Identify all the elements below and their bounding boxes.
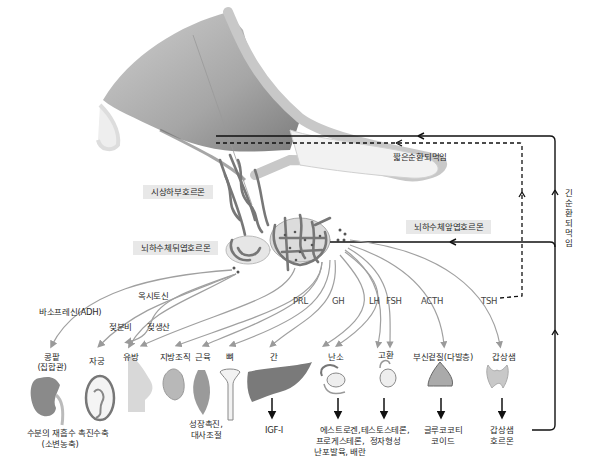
effect-testis-line2: 정자형성 bbox=[370, 436, 401, 446]
target-adrenal-label: 부신겉질(다발층) bbox=[413, 352, 473, 362]
hormone-adh-label: 바소프레신(ADH) bbox=[39, 307, 101, 317]
hormone-tsh-label: TSH bbox=[481, 296, 497, 306]
effect-adrenal-line1: 글루코코티 bbox=[424, 425, 463, 435]
target-bone-label: 뼈 bbox=[226, 352, 234, 362]
muscle-icon bbox=[193, 370, 210, 415]
effect-thyroid-line1: 갑상샘 bbox=[490, 425, 513, 435]
posterior-pituitary-hormone-label: 뇌하수체뒤엽호르몬 bbox=[133, 241, 218, 255]
hormone-acth-label: ACTH bbox=[421, 296, 443, 306]
effect-kidney-line1: 수분의 재흡수 촉진 bbox=[27, 428, 93, 438]
kidney-icon bbox=[31, 377, 63, 425]
pituitary-illustration bbox=[220, 155, 330, 270]
diagram-artwork bbox=[0, 0, 589, 466]
hormone-fsh-label: FSH bbox=[386, 296, 402, 306]
adrenal-icon bbox=[428, 362, 453, 386]
ovary-icon bbox=[321, 365, 345, 393]
target-ovary-label: 난소 bbox=[328, 352, 343, 362]
adipose-icon bbox=[163, 369, 184, 400]
hypothalamic-hormone-label: 시상하부호르몬 bbox=[143, 185, 213, 199]
short-feedback-label: 짧은순환되먹임 bbox=[393, 152, 447, 162]
target-adipose-label: 지방조직 bbox=[160, 352, 191, 362]
liver-icon bbox=[247, 362, 312, 402]
effect-adrenal-line2: 코이드 bbox=[431, 436, 454, 446]
target-testis-label: 고환 bbox=[378, 350, 393, 360]
effect-growth-line1: 성장촉진, bbox=[189, 419, 222, 429]
target-muscle-label: 근육 bbox=[195, 352, 210, 362]
bone-icon bbox=[220, 369, 240, 420]
hormone-prl-label: PRL bbox=[293, 296, 308, 306]
target-liver-label: 간 bbox=[270, 352, 278, 362]
effect-kidney-line2: (소변농축) bbox=[42, 439, 79, 449]
thyroid-icon bbox=[487, 365, 508, 388]
anterior-pituitary-hormone-label: 뇌하수체앞엽호르몬 bbox=[406, 220, 491, 234]
effect-liver-igf1: IGF-I bbox=[265, 425, 283, 435]
target-kidney-label: 콩팥 (집합관) bbox=[37, 352, 66, 372]
effect-thyroid-line2: 호르몬 bbox=[490, 436, 513, 446]
effect-ovary-line2: 프로게스테론, bbox=[316, 436, 365, 446]
hormone-gh-label: GH bbox=[332, 296, 344, 306]
milk-production-label: 젖생산 bbox=[147, 322, 170, 332]
effect-ovary-line3: 난포발육, 배란 bbox=[314, 447, 365, 457]
long-feedback-label: 긴순환되먹임 bbox=[564, 188, 574, 248]
effect-testis-line1: 테스토스테론, bbox=[361, 425, 410, 435]
effect-uterus: 수축 bbox=[93, 428, 108, 438]
target-thyroid-label: 갑상샘 bbox=[492, 352, 515, 362]
hormone-oxytocin-label: 옥시토신 bbox=[138, 291, 169, 301]
target-uterus-label: 자궁 bbox=[89, 356, 104, 366]
effect-growth-line2: 대사조절 bbox=[191, 430, 222, 440]
breast-icon bbox=[128, 355, 152, 412]
target-breast-label: 유방 bbox=[123, 352, 138, 362]
endocrine-diagram: 시상하부호르몬 뇌하수체뒤엽호르몬 뇌하수체앞엽호르몬 짧은순환되먹임 긴순환되… bbox=[0, 0, 589, 466]
hormone-lh-label: LH bbox=[369, 296, 380, 306]
effect-ovary-line1: 에스트로겐, bbox=[320, 425, 361, 435]
testis-icon bbox=[380, 361, 396, 387]
hypothalamus-illustration bbox=[98, 12, 442, 205]
milk-ejection-label: 젖분비 bbox=[109, 322, 132, 332]
uterus-icon bbox=[86, 376, 114, 420]
